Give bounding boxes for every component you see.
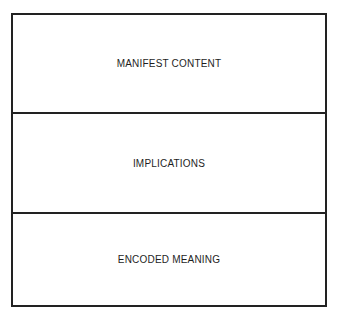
layer-implications: IMPLICATIONS: [13, 114, 325, 214]
layered-diagram: MANIFEST CONTENT IMPLICATIONS ENCODED ME…: [11, 13, 327, 307]
layer-manifest-content: MANIFEST CONTENT: [13, 15, 325, 114]
layer-label: MANIFEST CONTENT: [117, 58, 222, 69]
layer-encoded-meaning: ENCODED MEANING: [13, 214, 325, 305]
layer-label: ENCODED MEANING: [118, 254, 220, 265]
layer-label: IMPLICATIONS: [133, 158, 205, 169]
